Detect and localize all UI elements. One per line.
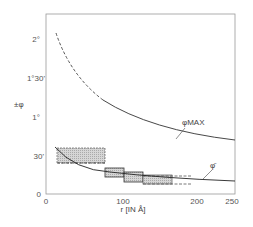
x-tick-200: 200	[190, 197, 204, 206]
error-boxes	[57, 148, 192, 184]
x-axis-label: r [IN Å]	[121, 205, 146, 214]
phibar-label: φ̄	[210, 161, 217, 170]
x-tick-250: 250	[225, 197, 239, 206]
phimax-curve	[103, 100, 235, 140]
y-tick-0: 0	[37, 190, 42, 199]
y-tick-1deg: 1°	[32, 113, 40, 122]
chart: 2° 1°30' 1° 30' 0 ±φ 0 100 200 250 r [IN…	[0, 0, 253, 227]
y-tick-30min: 30'	[34, 152, 45, 161]
phimax-curve-dashed	[56, 33, 103, 100]
y-axis-label: ±φ	[14, 100, 24, 109]
phibar-leader	[202, 170, 212, 180]
phimax-label: φMAX	[182, 118, 205, 127]
x-tick-0: 0	[44, 197, 49, 206]
plot-frame	[46, 14, 235, 194]
y-tick-1deg30: 1°30'	[27, 74, 46, 83]
y-tick-2deg: 2°	[32, 35, 40, 44]
